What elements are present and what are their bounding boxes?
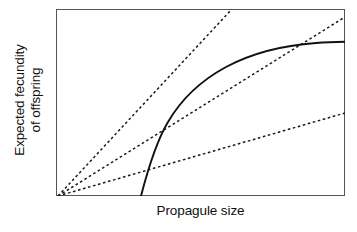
y-axis-label-line-1: Expected fecundity (12, 44, 28, 155)
plot-area (56, 9, 345, 196)
y-axis-label: Expected fecundity of offspring (0, 0, 56, 200)
plot-svg (56, 9, 345, 196)
plot-frame (57, 10, 345, 196)
y-axis-label-line-2: of offspring (28, 44, 44, 155)
chart-figure: Expected fecundity of offspring Propagul… (0, 0, 357, 232)
y-axis-label-text: Expected fecundity of offspring (12, 44, 44, 155)
x-axis-label: Propagule size (56, 203, 345, 218)
